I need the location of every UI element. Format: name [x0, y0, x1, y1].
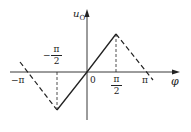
- x-axis-label: φ: [171, 76, 179, 87]
- dashed-waveform-left: [20, 62, 57, 110]
- dashed-waveform-right: [116, 34, 153, 80]
- frac-den: 2: [51, 56, 62, 66]
- frac-num: π: [51, 45, 62, 56]
- frac-num: π: [111, 75, 122, 86]
- x-axis-arrow-icon: [172, 70, 180, 75]
- waveform-diagram: [0, 0, 191, 132]
- tick-half-pi: π 2: [111, 75, 122, 96]
- tick-neg-half-pi: π 2: [51, 45, 62, 66]
- frac-den: 2: [111, 86, 122, 96]
- y-axis-arrow-icon: [85, 9, 90, 17]
- tick-neg-half-pi-sign: −: [43, 51, 51, 60]
- origin-label: 0: [90, 76, 96, 85]
- y-label-subscript: O: [79, 14, 85, 22]
- tick-pi: π: [142, 76, 148, 85]
- tick-neg-pi: −π: [11, 76, 24, 85]
- y-axis-label: uO: [73, 9, 85, 22]
